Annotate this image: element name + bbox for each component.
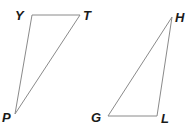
vertex-label-h: H xyxy=(175,10,185,25)
vertex-label-g: G xyxy=(91,110,101,125)
vertex-label-t: T xyxy=(83,8,92,23)
vertex-label-l: L xyxy=(161,111,169,126)
vertex-label-p: P xyxy=(2,110,11,125)
triangle-hgl xyxy=(108,17,172,116)
triangle-ytp xyxy=(15,15,80,114)
vertex-label-y: Y xyxy=(15,8,25,23)
diagram-canvas: Y T P H G L xyxy=(0,0,194,131)
